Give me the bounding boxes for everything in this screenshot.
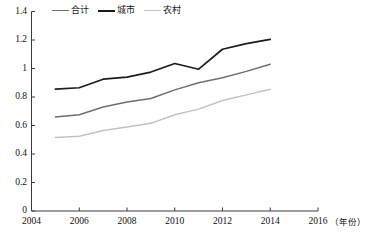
x-tick-label: 2012	[203, 217, 243, 227]
series-lines	[55, 39, 270, 137]
y-tick-label: 1.4	[2, 7, 27, 17]
legend-label-rural: 农村	[163, 6, 181, 15]
legend-swatch-urban	[98, 10, 115, 12]
chart-canvas	[0, 0, 374, 247]
legend-swatch-total	[52, 10, 69, 11]
x-tick-label: 2010	[155, 217, 195, 227]
x-tick-label: 2004	[12, 217, 52, 227]
y-tick-label: 0.6	[2, 121, 27, 131]
x-tick-label: 2006	[59, 217, 99, 227]
axis-lines	[32, 12, 319, 212]
axis-ticks	[32, 12, 319, 212]
y-tick-label: 0.2	[2, 178, 27, 188]
chart-legend: 合计 城市 农村	[52, 6, 181, 15]
y-tick-label: 0.8	[2, 92, 27, 102]
x-tick-label: 2014	[250, 217, 290, 227]
line-chart: 合计 城市 农村 00.20.40.60.811.21.4 2004200620…	[0, 0, 374, 247]
figure-caption	[0, 238, 374, 247]
y-tick-label: 1	[2, 64, 27, 74]
y-tick-label: 0.4	[2, 149, 27, 159]
legend-label-urban: 城市	[117, 6, 135, 15]
legend-item-total: 合计	[52, 6, 89, 15]
y-tick-label: 0	[2, 206, 27, 216]
y-tick-label: 1.2	[2, 35, 27, 45]
legend-item-rural: 农村	[144, 6, 181, 15]
legend-swatch-rural	[144, 10, 161, 11]
x-tick-label: 2008	[107, 217, 147, 227]
x-axis-unit-label: （年份）	[330, 218, 366, 227]
legend-label-total: 合计	[71, 6, 89, 15]
legend-item-urban: 城市	[98, 6, 135, 15]
